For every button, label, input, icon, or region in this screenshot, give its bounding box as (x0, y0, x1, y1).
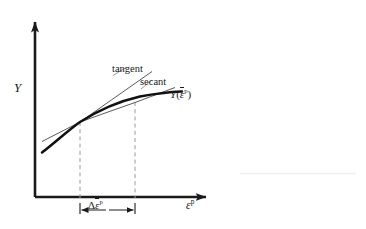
curve-paren-close: ) (188, 88, 192, 100)
delta-strain-label: Δεp (88, 199, 103, 211)
y-axis-label: Y (14, 81, 21, 94)
delta-base: ε (95, 200, 99, 211)
x-axis-label-sup: p (191, 197, 195, 206)
curve-arg-base: ε (180, 89, 184, 100)
tangent-label: tangent (112, 64, 143, 75)
delta-symbol: Δ (88, 199, 95, 211)
x-axis-label-base: ε (186, 199, 191, 211)
curve-function-label: Y(εp) (170, 88, 191, 100)
diagram-svg (0, 0, 366, 229)
yield-curve (42, 92, 182, 153)
delta-sup: p (99, 198, 102, 205)
x-axis-label: εp (186, 198, 194, 211)
secant-label: secant (140, 77, 166, 88)
figure-canvas: Y εp tangent secant Y(εp) Δεp (0, 0, 366, 229)
